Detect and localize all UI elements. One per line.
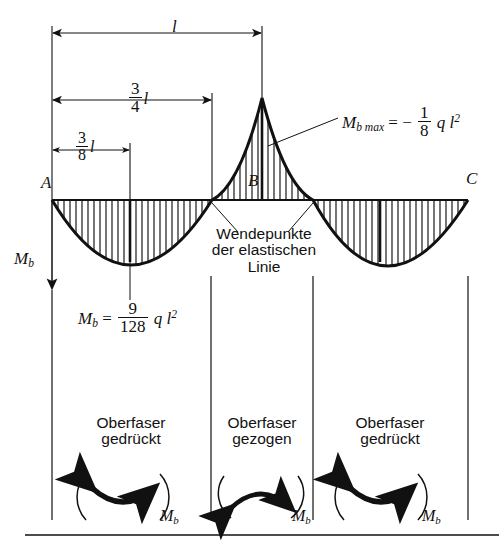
panel-middle-caption: Oberfaser gezogen (203, 415, 321, 448)
hatching-right (318, 198, 464, 345)
diagram-canvas (0, 0, 499, 554)
dimension-label-three-eighth: 3 8 l (74, 130, 94, 164)
point-label-a: A (41, 174, 51, 192)
bending-moment-figure: l 3 4 l 3 8 l A B C Mb Mb max = − 1 8 q … (0, 0, 499, 554)
frac-numerator: 3 (76, 130, 88, 147)
frac-denominator: 128 (118, 318, 148, 335)
frac-numerator: 9 (118, 300, 148, 318)
dimension-label-three-quarter: 3 4 l (127, 80, 148, 116)
frac-numerator: 1 (418, 104, 431, 122)
frac-denominator: 8 (76, 147, 88, 163)
station-lines (52, 26, 262, 200)
frac-denominator: 4 (129, 98, 142, 115)
dimension-label-span-full: l (172, 18, 177, 36)
panel-right-moment-label: Mb (422, 508, 441, 526)
inflection-note-line3: Linie (189, 259, 339, 275)
moment-arrow-right (335, 474, 427, 520)
frac-denominator: 8 (418, 122, 431, 139)
panel-left-caption: Oberfaser gedrückt (72, 415, 190, 448)
moment-axis-label: Mb (14, 250, 34, 270)
field-moment-annotation: Mb = 9 128 q l2 (78, 300, 177, 336)
point-label-b: B (248, 172, 258, 190)
point-label-c: C (466, 170, 477, 188)
inflection-note: Wendepunkte der elastischen Linie (213, 226, 313, 275)
panel-right-caption: Oberfaser gedrückt (331, 415, 449, 448)
frac-numerator: 3 (129, 80, 142, 98)
moment-arrow-middle (218, 476, 303, 518)
panel-left-moment-label: Mb (160, 508, 179, 526)
max-moment-annotation: Mb max = − 1 8 q l2 (342, 104, 460, 140)
inflection-note-line1: Wendepunkte (189, 226, 339, 242)
moment-arrow-left (77, 474, 169, 520)
inflection-note-line2: der elastischen (189, 242, 339, 258)
panel-middle-moment-label: Mb (292, 508, 311, 526)
